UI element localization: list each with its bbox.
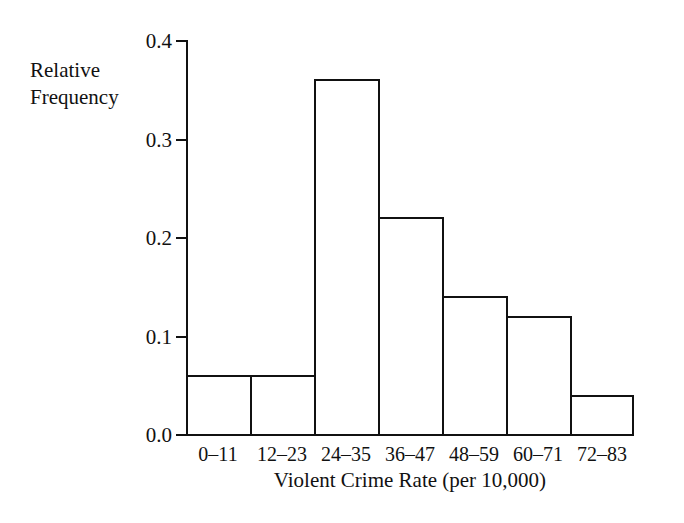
x-axis-tick-label: 12–23 (257, 444, 307, 464)
y-axis-tick (176, 336, 186, 338)
y-axis-tick-label: 0.4 (146, 30, 172, 51)
y-axis-tick (176, 40, 186, 42)
x-axis-tick-label: 48–59 (449, 444, 499, 464)
x-axis-tick-label: 36–47 (385, 444, 435, 464)
histogram-bar (378, 217, 444, 434)
histogram-bar (186, 375, 252, 434)
y-axis-tick (176, 237, 186, 239)
y-axis-tick-label: 0.0 (146, 425, 172, 446)
histogram-bar (506, 316, 572, 434)
plot-area: 0.00.10.20.30.4 0–1112–2324–3536–4748–59… (186, 40, 634, 436)
y-axis-tick (176, 434, 186, 436)
x-axis-tick-label: 24–35 (321, 444, 371, 464)
y-axis-tick-label: 0.2 (146, 228, 172, 249)
y-axis-tick-label: 0.1 (146, 326, 172, 347)
x-axis-tick-label: 60–71 (513, 444, 563, 464)
y-axis-label-line-2: Frequency (30, 85, 119, 109)
x-axis-title: Violent Crime Rate (per 10,000) (186, 470, 634, 491)
histogram-figure: RelativeFrequency 0.00.10.20.30.4 0–1112… (0, 0, 684, 523)
y-axis-tick-label: 0.3 (146, 129, 172, 150)
histogram-bar (250, 375, 316, 434)
y-axis-label-line-1: Relative (30, 58, 100, 82)
x-axis-tick-label: 72–83 (577, 444, 627, 464)
y-axis-tick (176, 139, 186, 141)
x-axis-spine (186, 434, 634, 436)
x-axis-tick-label: 0–11 (198, 444, 237, 464)
histogram-bar (314, 79, 380, 434)
histogram-bar (442, 296, 508, 434)
histogram-bar (570, 395, 634, 434)
y-axis-label: RelativeFrequency (30, 57, 160, 111)
